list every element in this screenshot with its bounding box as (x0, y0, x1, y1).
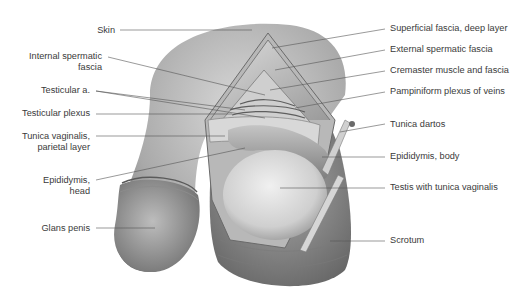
label-text: Skin (97, 25, 115, 35)
label-epididymis-body: Epididymis, body (390, 151, 459, 162)
label-glans-penis: Glans penis (41, 223, 90, 234)
label-text: Testicular a. (41, 85, 90, 95)
label-testis: Testis with tunica vaginalis (390, 182, 498, 193)
label-scrotum: Scrotum (390, 235, 424, 246)
anatomy-figure: Skin Internal spermatic fascia Testicula… (0, 0, 529, 296)
label-text-line-1: Epididymis, (43, 175, 90, 185)
label-text: Superficial fascia, deep layer (390, 23, 507, 33)
label-text-line-2: fascia (78, 62, 102, 72)
label-text: Glans penis (41, 223, 90, 233)
label-text: External spermatic fascia (390, 44, 493, 54)
label-tunica-dartos: Tunica dartos (390, 119, 445, 130)
label-superficial-fascia-deep: Superficial fascia, deep layer (390, 23, 507, 34)
testis (223, 150, 327, 240)
label-skin: Skin (97, 25, 115, 36)
label-text-line-1: Tunica vaginalis, (22, 131, 90, 141)
label-pampiniform: Pampiniform plexus of veins (390, 86, 505, 97)
label-epididymis-head: Epididymis, head (43, 175, 90, 197)
label-text: Tunica dartos (390, 119, 445, 129)
label-text: Scrotum (390, 235, 424, 245)
label-internal-spermatic-fascia: Internal spermatic fascia (29, 51, 102, 73)
label-external-spermatic-fascia: External spermatic fascia (390, 44, 493, 55)
label-text: Cremaster muscle and fascia (390, 65, 509, 75)
label-cremaster: Cremaster muscle and fascia (390, 65, 509, 76)
label-testicular-artery: Testicular a. (41, 85, 90, 96)
label-tunica-vaginalis-parietal: Tunica vaginalis, parietal layer (22, 131, 90, 153)
label-text-line-2: head (70, 186, 90, 196)
label-text: Epididymis, body (390, 151, 459, 161)
label-text: Pampiniform plexus of veins (390, 86, 505, 96)
glans (114, 180, 200, 272)
label-text-line-1: Internal spermatic (29, 51, 102, 61)
label-text: Testis with tunica vaginalis (390, 182, 498, 192)
label-text-line-2: parietal layer (37, 142, 90, 152)
label-testicular-plexus: Testicular plexus (22, 108, 90, 119)
label-text: Testicular plexus (22, 108, 90, 118)
